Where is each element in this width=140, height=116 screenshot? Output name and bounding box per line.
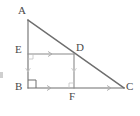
vertex-label-A: A (18, 5, 26, 16)
right-angle-marker-B (28, 80, 36, 88)
right-angle-marker-E (28, 54, 33, 59)
vertex-label-D: D (76, 42, 84, 53)
vertex-label-F: F (69, 91, 75, 102)
right-angle-marker-F (69, 83, 74, 88)
vertex-label-C: C (126, 81, 133, 92)
vertex-label-E: E (15, 44, 22, 55)
geometry-figure: A E B D F C (0, 0, 140, 116)
inscribed-rectangle (28, 54, 74, 88)
vertex-label-B: B (15, 81, 22, 92)
